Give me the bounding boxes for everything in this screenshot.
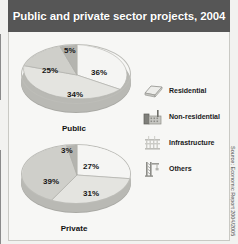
legend-label-others: Others [165,165,192,172]
source-credit-text: Source: Economic Report 2004/2005 [230,146,236,236]
pie-stage-private: 27% 31% 39% 3% [17,136,135,220]
pie-top-private [21,144,131,204]
pie-value-private-residential: 27% [83,162,99,171]
chart-panel: 36% 34% 25% 5% Public [8,32,230,241]
legend-label-infrastructure: Infrastructure [165,139,215,146]
crane-icon [141,158,165,180]
pie-caption-public: Public [15,124,133,133]
pie-value-public-residential: 36% [91,68,107,77]
pie-value-private-non-residential: 31% [83,189,99,198]
factory-building-icon [141,106,165,128]
residential-roof-icon [141,80,165,102]
chart-figure: Public and private sector projects, 2004 [0,0,238,244]
pie-stage-public: 36% 34% 25% 5% [17,36,135,120]
chart-title-banner: Public and private sector projects, 2004 [8,0,230,32]
page-title: Public and private sector projects, 2004 [13,10,226,23]
infrastructure-icon [141,132,165,154]
legend-label-residential: Residential [165,87,206,94]
legend: Residential Non-resi [141,78,229,182]
left-margin-rule-top [0,34,1,100]
pie-chart-private: 27% 31% 39% 3% Private [15,136,137,240]
pie-value-private-others: 3% [61,146,73,155]
legend-item-non-residential: Non-residential [141,104,229,129]
pie-value-private-infrastructure: 39% [43,177,59,186]
legend-item-others: Others [141,156,229,181]
legend-item-infrastructure: Infrastructure [141,130,229,155]
pie-caption-private: Private [15,224,133,233]
legend-label-non-residential: Non-residential [165,113,220,120]
left-margin-rule-bottom [0,150,1,244]
pie-slices-private [21,144,131,204]
pie-value-public-non-residential: 34% [67,90,83,99]
pie-chart-public: 36% 34% 25% 5% Public [15,36,137,136]
source-credit: Source: Economic Report 2004/2005 [228,146,238,242]
pie-value-public-others: 5% [64,46,76,55]
legend-item-residential: Residential [141,78,229,103]
pie-value-public-infrastructure: 25% [42,66,58,75]
